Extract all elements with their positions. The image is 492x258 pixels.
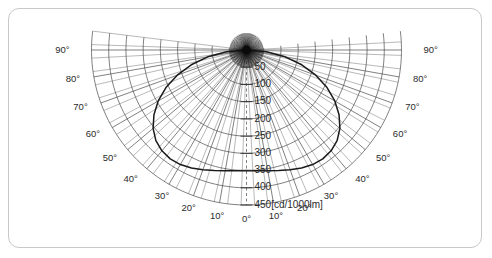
radial-label: 400 (255, 181, 272, 192)
angle-label-center-0: 0° (242, 213, 251, 224)
angle-label-right-10: 10° (269, 210, 284, 221)
radial-label: 350 (255, 164, 272, 175)
angle-label-left-50: 50° (103, 152, 118, 163)
angle-label-right-50: 50° (376, 152, 391, 163)
angle-label-left-60: 60° (86, 128, 101, 139)
angle-label-right-60: 60° (393, 128, 408, 139)
angle-label-right-90: 90° (424, 44, 439, 55)
radial-label: 150 (255, 95, 272, 106)
radial-label: 100 (255, 78, 272, 89)
angle-label-left-80: 80° (66, 73, 81, 84)
angle-label-right-80: 80° (413, 73, 428, 84)
radial-label-group: 50100150200250300350400450[cd/1000lm] (255, 61, 324, 210)
angle-label-left-30: 30° (155, 190, 170, 201)
angle-label-left-10: 10° (210, 210, 225, 221)
angle-label-left-20: 20° (182, 202, 197, 213)
radial-label: 200 (255, 113, 272, 124)
angle-label-right-70: 70° (405, 101, 420, 112)
angle-label-left-40: 40° (123, 173, 138, 184)
angle-label-right-30: 30° (324, 190, 339, 201)
radial-label-max-with-unit: 450[cd/1000lm] (255, 199, 324, 210)
angle-label-left-90: 90° (55, 44, 70, 55)
radial-label: 300 (255, 147, 272, 158)
radial-label: 250 (255, 130, 272, 141)
angle-label-right-40: 40° (355, 173, 370, 184)
polar-distribution-chart: 90°80°70°60°50°40°30°20°10°0°10°20°30°40… (0, 0, 492, 258)
radial-label: 50 (255, 61, 267, 72)
angle-label-left-70: 70° (73, 101, 88, 112)
